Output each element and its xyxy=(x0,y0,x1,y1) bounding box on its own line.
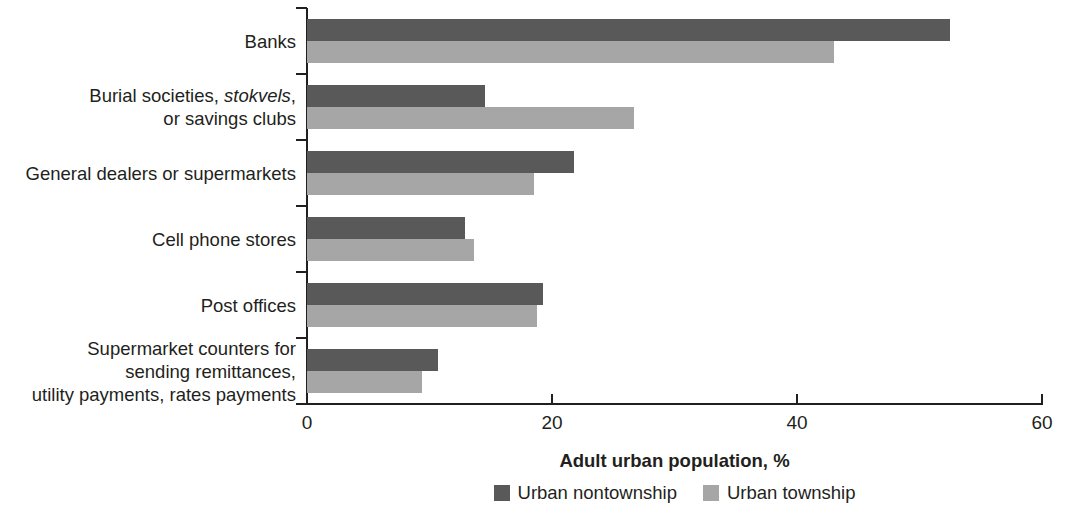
category-label: Supermarket counters forsending remittan… xyxy=(0,337,296,406)
bar-0-5[interactable] xyxy=(307,349,438,371)
category-label: Banks xyxy=(0,30,296,53)
bar-1-1[interactable] xyxy=(307,107,634,129)
y-axis-tick xyxy=(296,337,307,339)
y-axis-tick xyxy=(296,7,307,9)
legend-swatch-icon-series-0 xyxy=(494,485,510,501)
bar-1-5[interactable] xyxy=(307,371,422,393)
category-label: Burial societies, stokvels,or savings cl… xyxy=(0,84,296,130)
chart-legend: Urban nontownship Urban township xyxy=(307,482,1042,504)
x-axis-tick-label: 60 xyxy=(1012,412,1072,434)
x-axis-tick xyxy=(796,394,798,405)
category-label: Post offices xyxy=(0,294,296,317)
category-label: General dealers or supermarkets xyxy=(0,162,296,185)
x-axis-line xyxy=(306,403,1042,405)
bar-1-2[interactable] xyxy=(307,173,534,195)
bar-1-3[interactable] xyxy=(307,239,474,261)
legend-label-series-1: Urban township xyxy=(727,482,856,504)
y-axis-tick xyxy=(296,271,307,273)
legend-label-series-0: Urban nontownship xyxy=(518,482,677,504)
y-axis-tick xyxy=(296,73,307,75)
bar-0-2[interactable] xyxy=(307,151,574,173)
bar-0-3[interactable] xyxy=(307,217,465,239)
legend-swatch-icon-series-1 xyxy=(703,485,719,501)
x-axis-tick-label: 20 xyxy=(522,412,582,434)
legend-item-urban-nontownship[interactable]: Urban nontownship xyxy=(494,482,677,504)
bar-0-4[interactable] xyxy=(307,283,543,305)
bar-0-1[interactable] xyxy=(307,85,485,107)
y-axis-tick xyxy=(296,205,307,207)
x-axis-tick xyxy=(1041,394,1043,405)
x-axis-tick-label: 0 xyxy=(277,412,337,434)
x-axis-tick xyxy=(551,394,553,405)
bar-0-0[interactable] xyxy=(307,19,950,41)
legend-item-urban-township[interactable]: Urban township xyxy=(703,482,856,504)
x-axis-tick xyxy=(306,394,308,405)
bar-1-0[interactable] xyxy=(307,41,834,63)
bar-chart: BanksBurial societies, stokvels,or savin… xyxy=(0,0,1078,514)
x-axis-tick-label: 40 xyxy=(767,412,827,434)
category-label: Cell phone stores xyxy=(0,228,296,251)
x-axis-title: Adult urban population, % xyxy=(307,450,1042,472)
bar-1-4[interactable] xyxy=(307,305,537,327)
y-axis-tick xyxy=(296,139,307,141)
